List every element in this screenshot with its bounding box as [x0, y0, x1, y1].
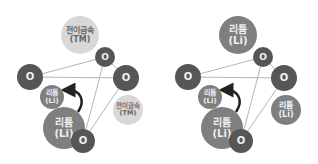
right-oxygen-top: O: [253, 47, 273, 67]
atom-symbol: (Li): [45, 97, 58, 105]
atom-symbol: O: [79, 135, 88, 147]
left-oxygen-bottom: O: [71, 129, 95, 153]
right-oxygen-right: O: [271, 65, 297, 91]
left-oxygen-right: O: [113, 65, 139, 91]
atom-symbol: O: [259, 52, 267, 62]
right-lithium-top: 리튬 (Li): [219, 16, 257, 54]
atom-symbol: O: [122, 72, 131, 84]
atom-symbol: O: [101, 52, 109, 62]
atom-label: 리튬: [55, 117, 73, 129]
atom-symbol: (Li): [278, 110, 293, 119]
right-oxygen-bottom: O: [229, 129, 253, 153]
atom-label: 리튬: [229, 24, 247, 36]
right-oxygen-left: O: [175, 64, 201, 90]
atom-label: 전이금속: [66, 26, 94, 35]
atom-symbol: (TM): [120, 110, 137, 117]
atom-label: 리튬: [46, 89, 58, 97]
right-lithium-right: 리튬 (Li): [271, 95, 301, 125]
left-tm-right-atom: 전이금속 (TM): [113, 95, 143, 125]
atom-label: 리튬: [279, 101, 293, 110]
atom-symbol: (Li): [203, 97, 216, 105]
atom-symbol: (Li): [229, 35, 248, 47]
atom-symbol: O: [280, 72, 289, 84]
left-oxygen-left: O: [17, 64, 43, 90]
atom-symbol: O: [184, 71, 193, 83]
left-lithium-small: 리튬 (Li): [40, 85, 64, 109]
atom-symbol: O: [26, 71, 35, 83]
atom-label: 리튬: [213, 117, 231, 129]
atom-symbol: (TM): [70, 35, 91, 44]
left-tm-top-atom: 전이금속 (TM): [61, 16, 99, 54]
left-oxygen-top: O: [95, 47, 115, 67]
atom-symbol: O: [237, 135, 246, 147]
right-lithium-small: 리튬 (Li): [198, 85, 222, 109]
atom-label: 리튬: [204, 89, 216, 97]
